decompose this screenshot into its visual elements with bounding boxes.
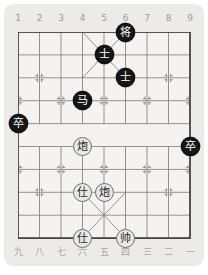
file-label-bottom-1: 九 — [10, 244, 26, 260]
red-cannon-upper-glyph: 炮 — [77, 141, 88, 152]
red-general-glyph: 帅 — [120, 232, 131, 243]
red-cannon-upper[interactable]: 炮 — [73, 137, 92, 156]
file-labels-bottom: 九八七六五四三二一 — [4, 244, 204, 260]
file-label-top-2: 2 — [32, 10, 48, 26]
black-advisor-left-glyph: 士 — [99, 49, 110, 60]
file-label-top-1: 1 — [10, 10, 26, 26]
file-label-top-7: 7 — [139, 10, 155, 26]
black-pawn-right[interactable]: 卒 — [181, 137, 200, 156]
red-cannon-lower-glyph: 炮 — [99, 186, 110, 197]
file-label-bottom-6: 四 — [118, 244, 134, 260]
black-general[interactable]: 将 — [116, 23, 135, 42]
xiangqi-board-widget[interactable]: 123456789 将士士马卒卒炮仕炮仕帅 九八七六五四三二一 — [4, 4, 204, 266]
file-label-top-8: 8 — [161, 10, 177, 26]
black-advisor-right-glyph: 士 — [120, 72, 131, 83]
file-label-bottom-2: 八 — [32, 244, 48, 260]
board-grid — [18, 32, 198, 242]
red-advisor-lower-glyph: 仕 — [77, 232, 88, 243]
black-advisor-left[interactable]: 士 — [95, 45, 114, 64]
black-pawn-right-glyph: 卒 — [185, 141, 196, 152]
board-playing-field[interactable]: 将士士马卒卒炮仕炮仕帅 — [18, 32, 198, 242]
black-general-glyph: 将 — [120, 26, 131, 37]
file-label-top-4: 4 — [75, 10, 91, 26]
red-advisor-upper[interactable]: 仕 — [73, 183, 92, 202]
file-label-bottom-5: 五 — [96, 244, 112, 260]
file-label-bottom-9: 一 — [182, 244, 198, 260]
black-pawn-left[interactable]: 卒 — [9, 114, 28, 133]
black-horse-glyph: 马 — [77, 95, 88, 106]
file-label-bottom-8: 二 — [161, 244, 177, 260]
black-pawn-left-glyph: 卒 — [13, 118, 24, 129]
file-label-top-3: 3 — [53, 10, 69, 26]
file-labels-top: 123456789 — [4, 10, 204, 26]
file-label-bottom-7: 三 — [139, 244, 155, 260]
red-cannon-lower[interactable]: 炮 — [95, 183, 114, 202]
file-label-bottom-3: 七 — [53, 244, 69, 260]
file-label-bottom-4: 六 — [75, 244, 91, 260]
file-label-top-5: 5 — [96, 10, 112, 26]
red-advisor-upper-glyph: 仕 — [77, 186, 88, 197]
grid-lines-svg — [18, 32, 198, 242]
file-label-top-9: 9 — [182, 10, 198, 26]
